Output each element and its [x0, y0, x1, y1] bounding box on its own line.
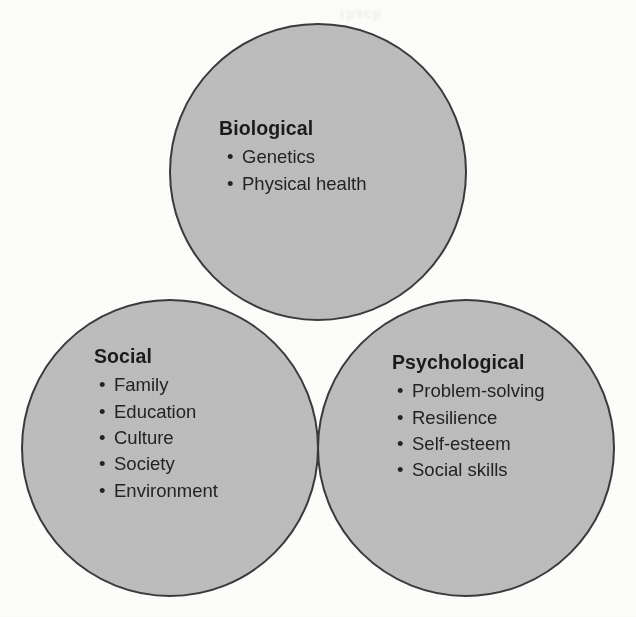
group-items-biological: •Genetics •Physical health	[214, 144, 366, 197]
venn-circle-fills	[22, 24, 614, 596]
bullet-icon: •	[99, 372, 105, 398]
venn-diagram: thach	[0, 0, 636, 617]
bullet-icon: •	[99, 478, 105, 504]
bullet-icon: •	[397, 378, 403, 404]
bullet-icon: •	[99, 425, 105, 451]
list-item: •Family	[92, 372, 218, 398]
list-item: •Resilience	[390, 405, 545, 431]
group-items-psychological: •Problem-solving •Resilience •Self-estee…	[390, 378, 545, 483]
list-item-label: Society	[114, 453, 175, 474]
group-label-biological: Biological •Genetics •Physical health	[214, 118, 366, 197]
bullet-icon: •	[397, 431, 403, 457]
group-label-social: Social •Family •Education •Culture •Soci…	[92, 346, 218, 504]
list-item: •Education	[92, 399, 218, 425]
group-title-social: Social	[94, 346, 218, 367]
list-item: •Social skills	[390, 457, 545, 483]
list-item-label: Self-esteem	[412, 433, 511, 454]
bullet-icon: •	[227, 144, 233, 170]
list-item: •Society	[92, 451, 218, 477]
group-title-biological: Biological	[219, 118, 366, 139]
venn-circles-svg	[0, 0, 636, 617]
bullet-icon: •	[397, 457, 403, 483]
list-item-label: Problem-solving	[412, 380, 545, 401]
list-item: •Culture	[92, 425, 218, 451]
list-item: •Physical health	[214, 171, 366, 197]
bullet-icon: •	[227, 171, 233, 197]
group-items-social: •Family •Education •Culture •Society •En…	[92, 372, 218, 503]
list-item: •Self-esteem	[390, 431, 545, 457]
list-item-label: Culture	[114, 427, 174, 448]
list-item-label: Family	[114, 374, 168, 395]
list-item: •Genetics	[214, 144, 366, 170]
bullet-icon: •	[99, 399, 105, 425]
list-item-label: Social skills	[412, 459, 508, 480]
list-item-label: Environment	[114, 480, 218, 501]
list-item: •Problem-solving	[390, 378, 545, 404]
bullet-icon: •	[99, 451, 105, 477]
list-item-label: Education	[114, 401, 196, 422]
list-item-label: Physical health	[242, 173, 366, 194]
group-title-psychological: Psychological	[392, 352, 545, 373]
list-item: •Environment	[92, 478, 218, 504]
bullet-icon: •	[397, 405, 403, 431]
list-item-label: Resilience	[412, 407, 497, 428]
list-item-label: Genetics	[242, 146, 315, 167]
group-label-psychological: Psychological •Problem-solving •Resilien…	[390, 352, 545, 484]
